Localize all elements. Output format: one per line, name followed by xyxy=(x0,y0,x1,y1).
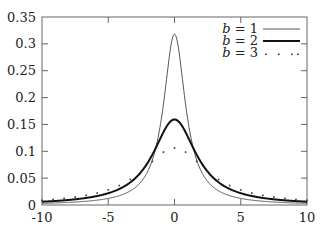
plot-curves xyxy=(41,34,308,203)
legend: b = 1b = 2b = 3 xyxy=(222,21,300,60)
plot-frame xyxy=(42,17,307,205)
x-tick-label: 5 xyxy=(237,210,245,225)
y-tick-label: 0.35 xyxy=(7,10,36,25)
legend-label: b = 3 xyxy=(222,45,258,60)
data-point xyxy=(262,195,264,197)
data-point xyxy=(107,189,109,191)
data-point xyxy=(74,196,76,198)
data-point xyxy=(295,199,297,201)
y-tick-label: 0.2 xyxy=(15,90,36,105)
data-point xyxy=(130,179,132,181)
data-point xyxy=(41,199,43,201)
x-tick-label: -10 xyxy=(32,210,53,225)
legend-dot xyxy=(278,54,280,56)
y-tick-label: 0.3 xyxy=(15,36,36,51)
data-point xyxy=(306,199,308,201)
data-point xyxy=(152,161,154,163)
data-point xyxy=(96,192,98,194)
legend-dot xyxy=(297,54,299,56)
data-point xyxy=(218,179,220,181)
data-point xyxy=(240,189,242,191)
y-axis-ticks: 00.050.10.150.20.250.30.35 xyxy=(7,10,307,213)
data-point xyxy=(118,185,120,187)
data-point xyxy=(251,192,253,194)
x-axis-ticks: -10-50510 xyxy=(32,17,316,225)
data-point xyxy=(52,199,54,201)
data-point xyxy=(141,171,143,173)
legend-dot xyxy=(291,54,293,56)
data-point xyxy=(85,195,87,197)
legend-dot xyxy=(265,54,267,56)
y-tick-label: 0.1 xyxy=(15,144,36,159)
data-point xyxy=(229,185,231,187)
data-point xyxy=(284,198,286,200)
series-line-b2 xyxy=(42,120,307,202)
x-tick-label: -5 xyxy=(102,210,115,225)
data-point xyxy=(273,196,275,198)
x-tick-label: 0 xyxy=(170,210,178,225)
x-tick-label: 10 xyxy=(299,210,316,225)
chart: 00.050.10.150.20.250.30.35 -10-50510 b =… xyxy=(0,0,326,235)
data-point xyxy=(163,151,165,153)
data-point xyxy=(196,161,198,163)
y-tick-label: 0.05 xyxy=(7,171,36,186)
y-tick-label: 0.15 xyxy=(7,117,36,132)
y-tick-label: 0.25 xyxy=(7,63,36,78)
data-point xyxy=(174,147,176,149)
data-point xyxy=(207,171,209,173)
data-point xyxy=(63,198,65,200)
data-point xyxy=(185,151,187,153)
